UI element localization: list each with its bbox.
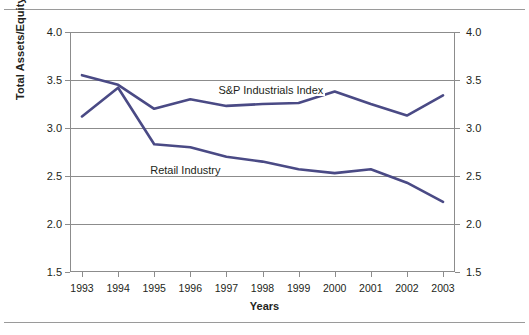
y-axis-left-tick-label: 3.0 — [36, 123, 62, 134]
x-axis-tick — [335, 272, 336, 277]
x-axis-tick-label: 2002 — [395, 283, 418, 294]
x-axis-tick — [371, 272, 372, 277]
y-axis-right-tick-label: 4.0 — [466, 27, 481, 38]
x-axis-tick — [299, 272, 300, 277]
x-axis-tick — [263, 272, 264, 277]
y-axis-tick — [65, 272, 70, 273]
y-axis-title: Total Assets/Equity — [14, 0, 26, 100]
x-axis-tick-label: 1993 — [70, 283, 93, 294]
plot-area: S&P Industrials Index Retail Industry — [70, 32, 455, 272]
page-rule-top — [4, 9, 525, 10]
y-axis-left-tick-label: 2.5 — [36, 171, 62, 182]
y-axis-tick — [455, 176, 460, 177]
series-label-retail-industry: Retail Industry — [148, 164, 222, 176]
x-axis-tick-label: 2000 — [323, 283, 346, 294]
x-axis-tick-label: 2003 — [431, 283, 454, 294]
x-axis-tick-label: 2001 — [359, 283, 382, 294]
y-axis-right-tick-label: 3.0 — [466, 123, 481, 134]
y-axis-tick — [455, 80, 460, 81]
y-axis-left-tick-label: 1.5 — [36, 267, 62, 278]
x-axis-tick — [226, 272, 227, 277]
x-axis-tick — [443, 272, 444, 277]
x-axis-tick-label: 1999 — [287, 283, 310, 294]
x-axis-tick-label: 1994 — [106, 283, 129, 294]
series-label-sp-industrials-index: S&P Industrials Index — [216, 84, 325, 96]
y-axis-left-tick-label: 3.5 — [36, 75, 62, 86]
x-axis-tick — [82, 272, 83, 277]
y-axis-tick — [455, 224, 460, 225]
y-axis-right-tick-label: 2.5 — [466, 171, 481, 182]
y-axis-right-tick-label: 2.0 — [466, 219, 481, 230]
x-axis-tick-label: 1996 — [179, 283, 202, 294]
x-axis-tick-label: 1998 — [251, 283, 274, 294]
x-axis-tick — [190, 272, 191, 277]
x-axis-tick — [118, 272, 119, 277]
x-axis-tick — [407, 272, 408, 277]
x-axis-tick-label: 1997 — [215, 283, 238, 294]
y-axis-tick — [455, 128, 460, 129]
page-rule-bottom — [4, 322, 525, 323]
chart-figure: Total Assets/Equity Years 1.52.02.53.03.… — [0, 0, 529, 335]
y-axis-right-tick-label: 3.5 — [466, 75, 481, 86]
y-axis-left-tick-label: 2.0 — [36, 219, 62, 230]
y-axis-right-tick-label: 1.5 — [466, 267, 481, 278]
y-axis-tick — [455, 272, 460, 273]
y-axis-tick — [455, 32, 460, 33]
x-axis-tick — [154, 272, 155, 277]
y-axis-left-tick-label: 4.0 — [36, 27, 62, 38]
series-lines — [70, 32, 455, 272]
x-axis-title: Years — [0, 300, 529, 312]
x-axis-tick-label: 1995 — [143, 283, 166, 294]
